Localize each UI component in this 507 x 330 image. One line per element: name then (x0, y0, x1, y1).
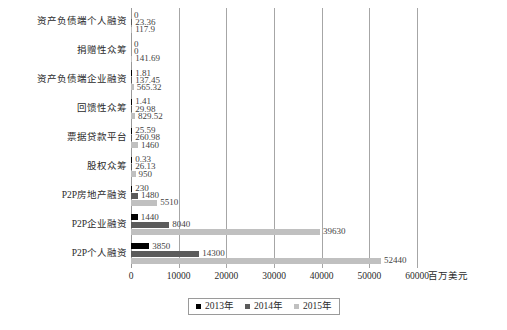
bar-2014-0 (131, 19, 132, 25)
x-tick-label: 50000 (357, 270, 381, 282)
bar-2015-0 (131, 27, 132, 33)
category-label: 票据贷款平台 (7, 132, 131, 143)
legend-item: 2015年 (294, 301, 332, 312)
category-label: P2P房地产融资 (7, 190, 131, 201)
bar-value-label: 3850 (152, 242, 170, 251)
bar-2014-7 (131, 222, 169, 228)
bar-group: 1.81137.45565.32 (131, 66, 417, 95)
x-tick-label: 10000 (167, 270, 191, 282)
bar-group: 25.59260.981460 (131, 124, 417, 153)
bar-2015-4 (131, 142, 138, 148)
bar-2014-5 (131, 164, 132, 170)
bar-2013-8 (131, 243, 149, 249)
bar-2014-8 (131, 251, 199, 257)
bar-group: 0.3326.13950 (131, 152, 417, 181)
bar-2015-7 (131, 229, 320, 235)
legend-swatch-icon (196, 304, 201, 309)
bar-chart: 资产负债端个人融资捐赠性众筹资产负债端企业融资回馈性众筹票据贷款平台股权众筹P2… (0, 0, 507, 330)
legend-item: 2014年 (245, 301, 283, 312)
bar-value-label: 565.32 (137, 83, 162, 92)
bar-value-label: 1440 (141, 213, 159, 222)
legend-label: 2015年 (303, 301, 332, 312)
category-label: 回馈性众筹 (7, 103, 131, 114)
x-tick-label: 20000 (214, 270, 238, 282)
bar-value-label: 5510 (160, 198, 178, 207)
category-axis: 资产负债端个人融资捐赠性众筹资产负债端企业融资回馈性众筹票据贷款平台股权众筹P2… (0, 8, 131, 268)
bar-value-label: 950 (139, 170, 153, 179)
bar-group: 23014805510 (131, 181, 417, 210)
bar-2015-1 (131, 56, 132, 62)
category-label: P2P个人融资 (7, 248, 131, 259)
bar-group: 1440804039630 (131, 210, 417, 239)
bar-group: 00141.69 (131, 37, 417, 66)
bar-value-label: 52440 (384, 256, 407, 265)
bar-value-label: 141.69 (135, 54, 160, 63)
gridline-60000 (417, 8, 418, 268)
bar-2013-2 (131, 70, 132, 76)
x-tick-label: 40000 (310, 270, 334, 282)
chart-legend: 2013年2014年2015年 (188, 298, 340, 315)
bar-2015-2 (131, 84, 134, 90)
bar-2014-6 (131, 193, 138, 199)
bar-group: 38501430052440 (131, 239, 417, 268)
bar-value-label: 39630 (323, 227, 346, 236)
bar-value-label: 1480 (141, 191, 159, 200)
bar-value-label: 8040 (172, 220, 190, 229)
bar-2015-8 (131, 258, 381, 264)
legend-swatch-icon (245, 304, 250, 309)
bar-2015-6 (131, 200, 157, 206)
bar-value-label: 829.52 (138, 112, 163, 121)
x-tick-label: 0 (129, 270, 134, 282)
bar-2013-6 (131, 186, 132, 192)
bar-2015-3 (131, 113, 135, 119)
plot-area: 023.36117.900141.691.81137.45565.321.412… (131, 8, 417, 268)
bar-2013-7 (131, 214, 138, 220)
bar-2015-5 (131, 171, 136, 177)
bar-group: 023.36117.9 (131, 8, 417, 37)
legend-label: 2013年 (205, 301, 234, 312)
bar-2013-5 (131, 157, 132, 163)
category-label: 资产负债端企业融资 (7, 74, 131, 85)
bar-2014-4 (131, 135, 132, 141)
category-label: 股权众筹 (7, 161, 131, 172)
bar-value-label: 1460 (141, 141, 159, 150)
value-axis: 0100002000030000400005000060000 (131, 270, 431, 286)
bar-value-label: 14300 (202, 249, 225, 258)
bar-2014-3 (131, 106, 132, 112)
legend-label: 2014年 (254, 301, 283, 312)
axis-unit-label: 百万美元 (428, 270, 468, 282)
bar-2013-4 (131, 128, 132, 134)
bar-2014-2 (131, 77, 132, 83)
legend-swatch-icon (294, 304, 299, 309)
bar-2013-3 (131, 99, 132, 105)
bar-group: 1.4129.98829.52 (131, 95, 417, 124)
category-label: P2P企业融资 (7, 219, 131, 230)
category-label: 资产负债端个人融资 (7, 16, 131, 27)
legend-item: 2013年 (196, 301, 234, 312)
bar-value-label: 117.9 (135, 25, 155, 34)
x-tick-label: 60000 (405, 270, 429, 282)
x-tick-label: 30000 (262, 270, 286, 282)
category-label: 捐赠性众筹 (7, 45, 131, 56)
